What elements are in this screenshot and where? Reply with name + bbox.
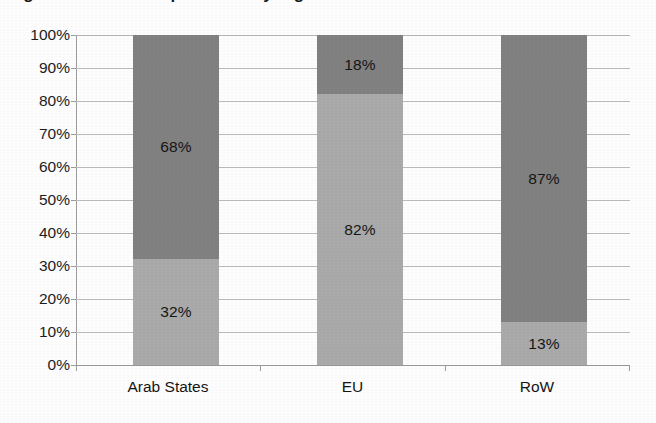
x-tick-mark [76, 365, 77, 371]
bar-segment-label: 18% [344, 57, 376, 73]
bar-segment-label: 87% [528, 171, 560, 187]
bar-segment-upper[interactable]: 68% [133, 35, 219, 259]
x-tick-mark [629, 365, 630, 371]
x-tick-mark [260, 365, 261, 371]
x-axis-labels: Arab States EU RoW [76, 379, 630, 407]
y-tick-label: 50% [2, 192, 70, 208]
bar-segment-upper[interactable]: 87% [501, 35, 587, 322]
y-tick-label: 90% [2, 60, 70, 76]
plot-area: 68% 32% 18% 82% 87% 13% [76, 35, 630, 365]
bar-segment-upper[interactable]: 18% [317, 35, 403, 94]
chart-title: Figure: Share of respondents by region [0, 0, 448, 4]
y-tick-label: 60% [2, 159, 70, 175]
bar-segment-label: 13% [528, 336, 560, 352]
y-tick-label: 40% [2, 225, 70, 241]
y-tick-label: 80% [2, 93, 70, 109]
bar-segment-label: 82% [344, 222, 376, 238]
y-tick-label: 10% [2, 324, 70, 340]
x-tick-label-eu: EU [260, 379, 445, 395]
bar-arab-states[interactable]: 68% 32% [133, 35, 219, 365]
chart-title-clipped: Figure: Share of respondents by region [0, 0, 656, 11]
bar-row[interactable]: 87% 13% [501, 35, 587, 365]
y-tick-label: 20% [2, 291, 70, 307]
bar-segment-lower[interactable]: 82% [317, 94, 403, 365]
x-tick-label-row: RoW [445, 379, 629, 395]
bar-segment-label: 32% [160, 304, 192, 320]
bar-segment-lower[interactable]: 32% [133, 259, 219, 365]
bar-eu[interactable]: 18% 82% [317, 35, 403, 365]
y-tick-label: 70% [2, 126, 70, 142]
y-tick-label: 30% [2, 258, 70, 274]
bar-segment-lower[interactable]: 13% [501, 322, 587, 365]
y-tick-label: 0% [2, 357, 70, 373]
x-tick-mark [445, 365, 446, 371]
y-axis-labels: 100% 90% 80% 70% 60% 50% 40% 30% 20% 10%… [0, 35, 70, 365]
y-tick-label: 100% [2, 27, 70, 43]
chart-figure: Figure: Share of respondents by region 1… [0, 0, 656, 423]
bar-segment-label: 68% [160, 139, 192, 155]
x-tick-label-arab-states: Arab States [76, 379, 260, 395]
gridline-0 [76, 365, 630, 366]
